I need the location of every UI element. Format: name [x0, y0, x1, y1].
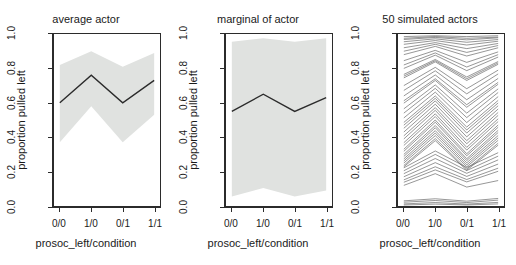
panel-average-actor: average actor proportion pulled left pro…	[0, 0, 172, 265]
x-axis	[397, 207, 505, 215]
y-tick-label: 0.8	[7, 55, 17, 81]
simulated-actor-line	[404, 41, 498, 45]
simulated-actor-line	[404, 163, 498, 177]
y-tick-label: 0.4	[7, 124, 17, 150]
y-tick-label: 0.0	[7, 194, 17, 220]
x-tick	[435, 207, 436, 212]
x-tick	[295, 207, 296, 212]
x-tick	[91, 207, 92, 212]
x-tick	[403, 207, 404, 212]
panel-marginal-of-actor: marginal of actor proportion pulled left…	[172, 0, 344, 265]
y-tick-label: 1.0	[179, 20, 189, 46]
simulated-actor-line	[404, 43, 498, 49]
y-tick-label: 0.0	[351, 194, 361, 220]
x-axis	[53, 207, 161, 215]
x-tick-label: 1/1	[479, 218, 516, 229]
plot-area	[225, 33, 333, 207]
y-tick-label: 0.0	[179, 194, 189, 220]
y-axis	[44, 33, 53, 207]
x-tick	[499, 207, 500, 212]
x-axis-label: prosoc_left/condition	[344, 236, 516, 250]
plot-svg	[398, 34, 504, 206]
x-tick-label: 1/1	[307, 218, 347, 229]
y-tick-label: 0.8	[179, 55, 189, 81]
simulated-actor-line	[404, 96, 498, 127]
simulated-actor-line	[404, 200, 498, 202]
x-axis-spine	[53, 207, 161, 208]
x-tick	[327, 207, 328, 212]
plot-svg	[54, 34, 160, 206]
y-axis	[216, 33, 225, 207]
simulated-actor-line	[404, 131, 498, 163]
panel-title: marginal of actor	[172, 12, 344, 26]
simulated-actor-line	[404, 36, 498, 37]
x-axis-spine	[225, 207, 333, 208]
y-tick-label: 0.6	[7, 90, 17, 116]
x-axis-label: prosoc_left/condition	[172, 236, 344, 250]
panel-simulated-actors: 50 simulated actors proportion pulled le…	[344, 0, 516, 265]
x-tick	[467, 207, 468, 212]
y-tick-label: 0.4	[179, 124, 189, 150]
y-tick-label: 1.0	[7, 20, 17, 46]
panel-title: average actor	[0, 12, 172, 26]
simulated-actor-line	[404, 167, 498, 180]
simulated-actor-line	[404, 159, 498, 174]
y-tick-label: 0.2	[351, 159, 361, 185]
simulated-actor-line	[404, 71, 498, 94]
y-tick-label: 1.0	[351, 20, 361, 46]
simulated-actor-line	[404, 198, 498, 201]
y-tick-label: 0.2	[7, 159, 17, 185]
simulated-actor-line	[404, 37, 498, 39]
interval-band	[60, 51, 154, 142]
figure-canvas: average actor proportion pulled left pro…	[0, 0, 516, 265]
interval-band	[232, 38, 326, 196]
plot-area	[53, 33, 161, 207]
x-tick	[263, 207, 264, 212]
simulated-actor-line	[404, 85, 498, 113]
x-axis-label: prosoc_left/condition	[0, 236, 172, 250]
x-tick	[123, 207, 124, 212]
x-axis	[225, 207, 333, 215]
x-tick-label: 1/1	[135, 218, 175, 229]
simulated-actor-line	[404, 39, 498, 42]
panel-title: 50 simulated actors	[344, 12, 516, 26]
simulated-actor-line	[404, 202, 498, 204]
y-tick-label: 0.6	[351, 90, 361, 116]
y-axis	[388, 33, 397, 207]
x-axis-spine	[397, 207, 505, 208]
y-tick-label: 0.2	[179, 159, 189, 185]
x-tick	[231, 207, 232, 212]
y-tick-label: 0.6	[179, 90, 189, 116]
y-tick-label: 0.8	[351, 55, 361, 81]
plot-svg	[226, 34, 332, 206]
x-tick	[155, 207, 156, 212]
simulated-actor-line	[404, 204, 498, 205]
x-tick	[59, 207, 60, 212]
spaghetti-lines	[404, 36, 498, 205]
plot-area	[397, 33, 505, 207]
y-tick-label: 0.4	[351, 124, 361, 150]
simulated-actor-line	[404, 53, 498, 67]
